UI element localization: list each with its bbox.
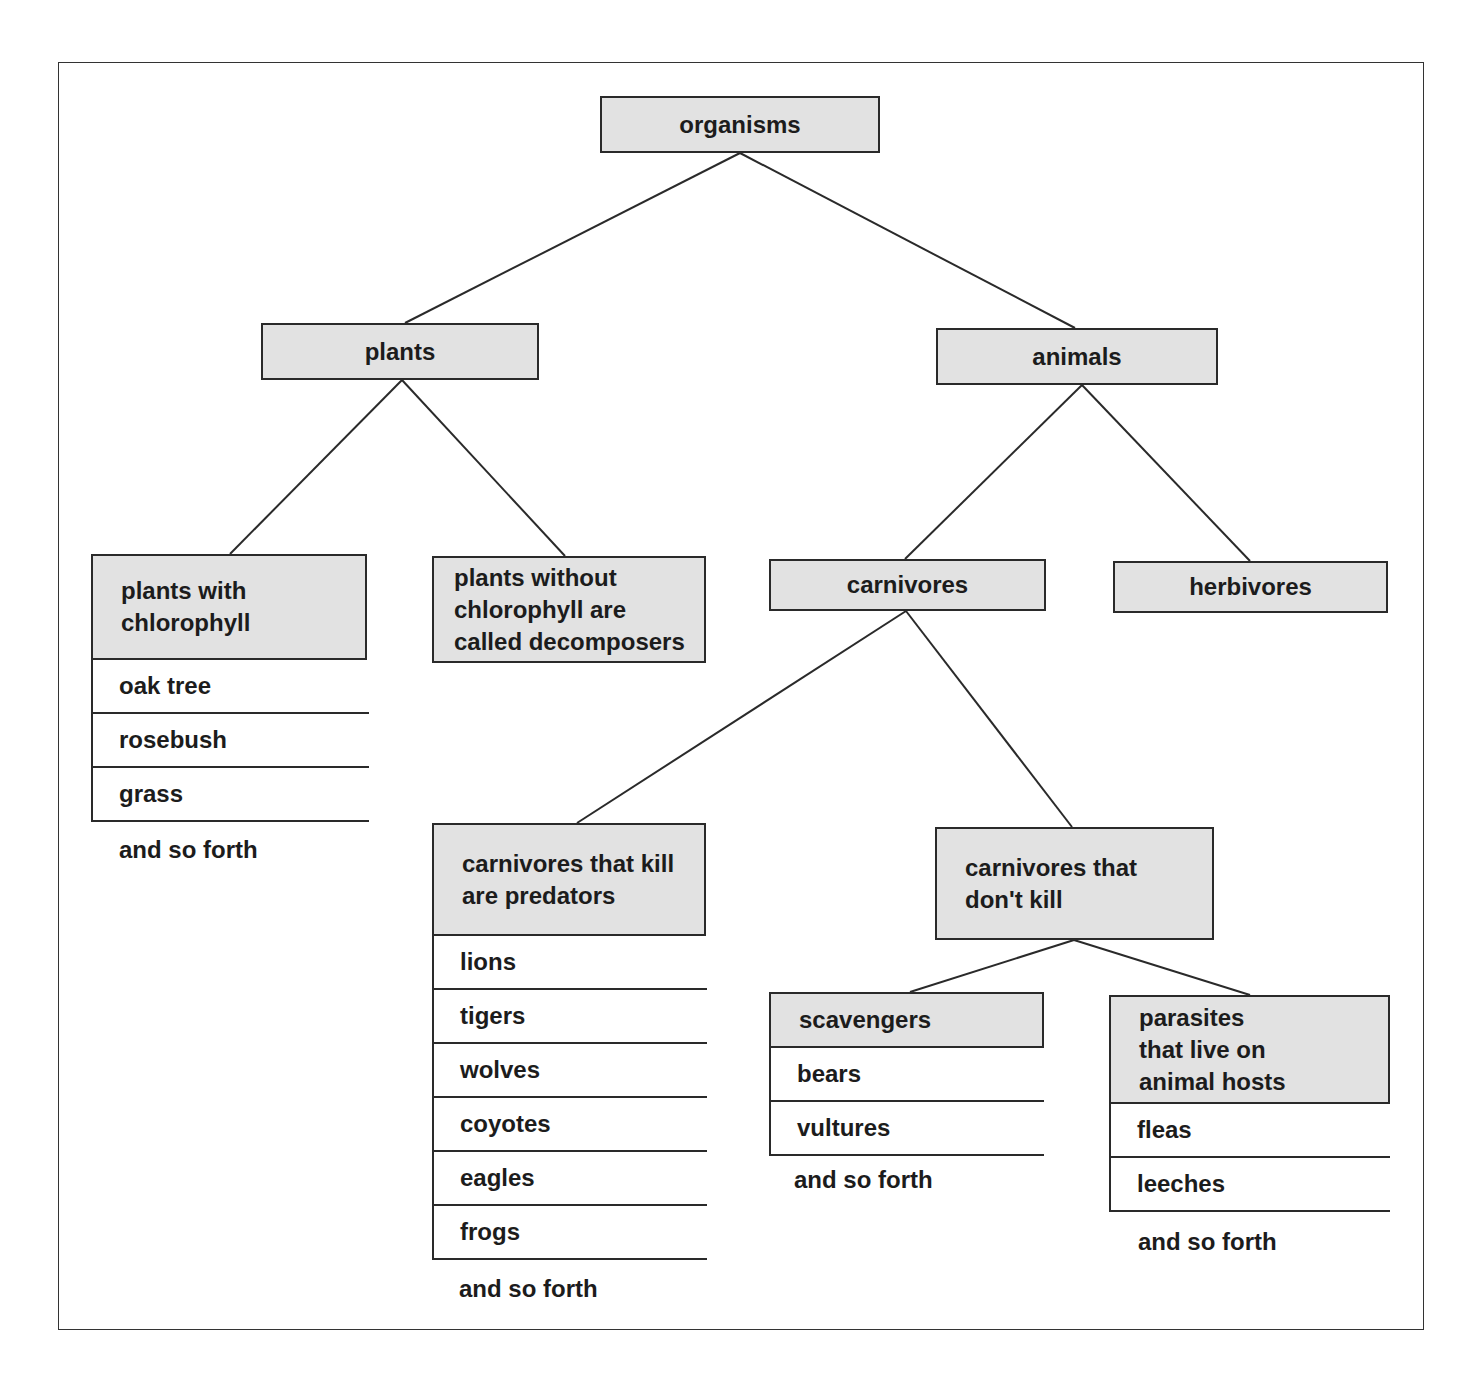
node-label: carnivores — [847, 569, 968, 601]
list-item: leeches — [1109, 1158, 1390, 1212]
node-label: herbivores — [1189, 571, 1312, 603]
and-so-forth-label: and so forth — [1138, 1228, 1277, 1256]
node-label: plants with chlorophyll — [121, 575, 250, 639]
node-organisms: organisms — [600, 96, 880, 153]
list-item: oak tree — [91, 660, 369, 714]
node-label: plants — [365, 336, 436, 368]
list-scavengers: bears vultures — [769, 1048, 1044, 1156]
node-plants-with-chlorophyll: plants with chlorophyll — [91, 554, 367, 660]
list-item: bears — [769, 1048, 1044, 1102]
node-label: carnivores that kill are predators — [462, 848, 674, 912]
list-item: lions — [432, 936, 707, 990]
node-plants: plants — [261, 323, 539, 380]
list-item: coyotes — [432, 1098, 707, 1152]
list-parasites: fleas leeches — [1109, 1104, 1390, 1212]
node-label: organisms — [679, 109, 800, 141]
node-label: animals — [1032, 341, 1121, 373]
list-item: wolves — [432, 1044, 707, 1098]
node-label: parasites that live on animal hosts — [1139, 1002, 1286, 1098]
list-item: vultures — [769, 1102, 1044, 1156]
list-item: eagles — [432, 1152, 707, 1206]
node-predators: carnivores that kill are predators — [432, 823, 706, 936]
node-plants-without-chlorophyll: plants without chlorophyll are called de… — [432, 556, 706, 663]
node-herbivores: herbivores — [1113, 561, 1388, 613]
list-item: tigers — [432, 990, 707, 1044]
list-plants-with-chlorophyll: oak tree rosebush grass — [91, 660, 369, 822]
list-predators: lions tigers wolves coyotes eagles frogs — [432, 936, 707, 1260]
node-carnivores-dont-kill: carnivores that don't kill — [935, 827, 1214, 940]
node-label: plants without chlorophyll are called de… — [454, 562, 685, 658]
and-so-forth-label: and so forth — [119, 836, 258, 864]
list-item: frogs — [432, 1206, 707, 1260]
node-animals: animals — [936, 328, 1218, 385]
and-so-forth-label: and so forth — [794, 1166, 933, 1194]
and-so-forth-label: and so forth — [459, 1275, 598, 1303]
node-label: scavengers — [799, 1004, 931, 1036]
list-item: grass — [91, 768, 369, 822]
list-item: fleas — [1109, 1104, 1390, 1158]
list-item: rosebush — [91, 714, 369, 768]
node-label: carnivores that don't kill — [965, 852, 1137, 916]
node-scavengers: scavengers — [769, 992, 1044, 1048]
node-parasites: parasites that live on animal hosts — [1109, 995, 1390, 1104]
node-carnivores: carnivores — [769, 559, 1046, 611]
